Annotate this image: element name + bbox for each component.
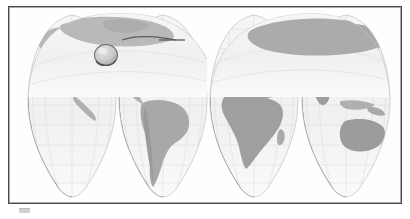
world-map[interactable]	[9, 7, 401, 203]
world-map-canvas[interactable]	[9, 7, 401, 203]
footer-shadow-mark	[19, 209, 30, 213]
gore-group	[9, 7, 401, 203]
lens-highlight	[98, 48, 106, 54]
screenshot-root	[0, 0, 410, 219]
magnifier-lens[interactable]	[95, 45, 118, 66]
land-new-zealand	[387, 149, 391, 159]
